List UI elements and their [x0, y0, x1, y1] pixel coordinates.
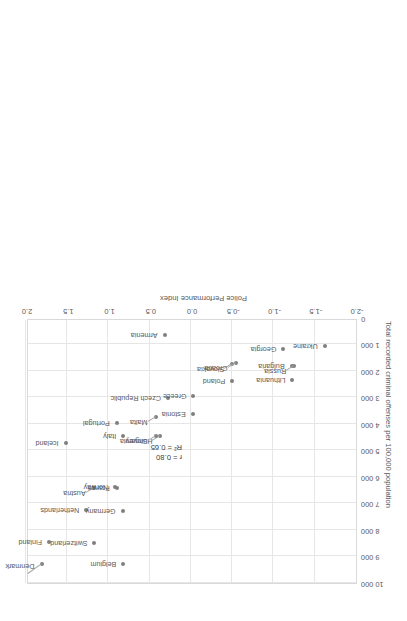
data-point-label: Germany — [86, 507, 116, 515]
gridline-horizontal — [28, 503, 356, 504]
plot-area: DenmarkFinlandBelgiumSwitzerlandNetherla… — [27, 319, 357, 584]
data-point-label: Croatia — [204, 364, 227, 372]
x-tick-label: -0.5 — [227, 307, 240, 316]
gridline-vertical — [149, 320, 150, 583]
gridline-vertical — [273, 320, 274, 583]
data-point[interactable] — [64, 441, 68, 445]
data-point-label: Iceland — [35, 439, 58, 447]
data-point-label: France — [87, 484, 109, 492]
gridline-vertical — [190, 320, 191, 583]
gridline-vertical — [314, 320, 315, 583]
gridline-vertical — [231, 320, 232, 583]
y-tick-label: 10 000 — [361, 580, 403, 589]
data-point-label: Italy — [103, 432, 116, 440]
gridline-horizontal — [28, 556, 356, 557]
x-tick-label: 0.0 — [187, 307, 197, 316]
gridline-horizontal — [28, 582, 356, 583]
scatter-chart-figure: DenmarkFinlandBelgiumSwitzerlandNetherla… — [0, 0, 407, 621]
data-point-label: Belgium — [90, 560, 116, 568]
data-point-label: Armenia — [131, 332, 158, 340]
data-point[interactable] — [163, 334, 167, 338]
x-tick-label: 0.5 — [146, 307, 156, 316]
gridline-horizontal — [28, 370, 356, 371]
gridline-horizontal — [28, 423, 356, 424]
data-point[interactable] — [115, 486, 119, 490]
y-tick-label: 9 000 — [361, 553, 403, 562]
y-tick-label: 1 000 — [361, 341, 403, 350]
statistics-annotation: r = 0.80 R² = 0.65 — [151, 442, 182, 462]
y-axis-title: Total recorded criminal offenses per 100… — [384, 321, 393, 508]
data-point-label: Slovenia — [120, 437, 148, 445]
data-point[interactable] — [290, 378, 294, 382]
data-point[interactable] — [115, 421, 119, 425]
gridline-horizontal — [28, 476, 356, 477]
data-point-label: Greece — [163, 392, 187, 400]
x-tick-label: -1.0 — [268, 307, 281, 316]
data-point-label: Russia — [264, 367, 286, 375]
data-point[interactable] — [323, 344, 327, 348]
y-tick-label: 5 000 — [361, 447, 403, 456]
x-tick-label: -1.5 — [309, 307, 322, 316]
y-tick-label: 2 000 — [361, 368, 403, 377]
data-point[interactable] — [230, 379, 234, 383]
data-point-label: Switzerland — [50, 539, 87, 547]
data-point-label: Lithuania — [256, 376, 285, 384]
y-tick-label: 0 — [361, 315, 403, 324]
data-point[interactable] — [191, 394, 195, 398]
gridline-horizontal — [28, 529, 356, 530]
correlation-coefficient-text: r = 0.80 — [151, 452, 182, 462]
x-axis-title: Police Performance Index — [0, 294, 407, 303]
y-tick-label: 8 000 — [361, 527, 403, 536]
data-point-label: Malta — [130, 418, 148, 426]
data-point-label: Portugal — [83, 419, 110, 427]
y-tick-label: 6 000 — [361, 474, 403, 483]
y-tick-label: 4 000 — [361, 421, 403, 430]
data-point[interactable] — [121, 509, 125, 513]
x-tick-label: 2.0 — [22, 307, 32, 316]
data-point-label: Denmark — [5, 562, 34, 570]
gridline-horizontal — [28, 450, 356, 451]
gridline-vertical — [108, 320, 109, 583]
y-tick-label: 3 000 — [361, 394, 403, 403]
data-point-label: Austria — [63, 489, 85, 497]
data-point-label: Ukraine — [293, 342, 318, 350]
data-point-label: Estonia — [162, 410, 186, 418]
data-point[interactable] — [281, 347, 285, 351]
data-point-label: Georgia — [251, 345, 277, 353]
x-tick-label: 1.0 — [104, 307, 114, 316]
x-tick-label: 1.5 — [63, 307, 73, 316]
r-squared-text: R² = 0.65 — [151, 442, 182, 452]
y-tick-label: 7 000 — [361, 500, 403, 509]
data-point[interactable] — [191, 412, 195, 416]
data-point-label: Finland — [19, 538, 43, 546]
data-point-label: Poland — [203, 377, 225, 385]
data-point[interactable] — [121, 562, 125, 566]
data-point-label: Czech Republic — [111, 394, 161, 402]
data-point[interactable] — [92, 541, 96, 545]
data-point-label: Netherlands — [40, 506, 79, 514]
